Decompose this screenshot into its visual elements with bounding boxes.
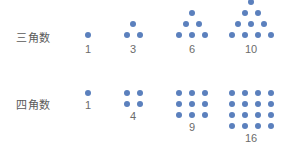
dot (229, 123, 235, 129)
dot (189, 32, 195, 38)
dot (229, 101, 235, 107)
dot (124, 101, 130, 107)
dot (85, 32, 91, 38)
dot (268, 112, 274, 118)
triangular-count-label-1: 1 (68, 43, 108, 55)
dot (255, 10, 261, 16)
dot (229, 32, 235, 38)
dot (268, 123, 274, 129)
square-count-label-16: 16 (231, 132, 271, 144)
dot (229, 90, 235, 96)
dot (242, 10, 248, 16)
dot (229, 112, 235, 118)
dot (189, 112, 195, 118)
row-label-triangular: 三角数 (16, 29, 51, 45)
dot (261, 21, 267, 27)
dot (255, 101, 261, 107)
dot (242, 101, 248, 107)
dot (268, 32, 274, 38)
dot (124, 32, 130, 38)
square-count-label-9: 9 (172, 121, 212, 133)
dot (242, 123, 248, 129)
dot (248, 21, 254, 27)
square-count-label-1: 1 (68, 99, 108, 111)
dot (202, 32, 208, 38)
triangular-count-label-10: 10 (231, 43, 271, 55)
dot (183, 21, 189, 27)
triangular-count-label-6: 6 (172, 43, 212, 55)
figurate-numbers-diagram: 三角数 四角数 1361014916 (0, 0, 285, 152)
dot (189, 101, 195, 107)
dot (268, 101, 274, 107)
dot (242, 112, 248, 118)
dot (202, 101, 208, 107)
square-count-label-4: 4 (113, 110, 153, 122)
dot (189, 90, 195, 96)
dot (196, 21, 202, 27)
dot (137, 90, 143, 96)
dot (255, 32, 261, 38)
dot (242, 90, 248, 96)
dot (255, 123, 261, 129)
dot (242, 32, 248, 38)
dot (176, 101, 182, 107)
dot (189, 10, 195, 16)
dot (255, 90, 261, 96)
dot (255, 112, 261, 118)
dot (202, 112, 208, 118)
triangular-count-label-3: 3 (113, 43, 153, 55)
dot (176, 90, 182, 96)
dot (268, 90, 274, 96)
dot (202, 90, 208, 96)
dot (235, 21, 241, 27)
dot (124, 90, 130, 96)
dot (137, 32, 143, 38)
row-label-square: 四角数 (16, 96, 51, 112)
dot (176, 32, 182, 38)
dot (137, 101, 143, 107)
dot (85, 90, 91, 96)
dot (248, 0, 254, 5)
dot (176, 112, 182, 118)
dot (130, 21, 136, 27)
